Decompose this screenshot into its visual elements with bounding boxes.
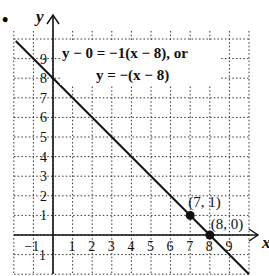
x-tick-label: 1 [69,239,76,254]
y-tick-label: 2 [40,189,47,204]
y-tick-label: 1 [40,208,47,223]
x-tick-label: 7 [186,239,193,254]
y-tick-label: 3 [40,169,47,184]
y-tick-label: 5 [40,130,47,145]
y-tick-label: 6 [40,110,47,125]
equation-line-1: y − 0 = −1(x − 8), or [62,45,188,62]
y-tick-label: 8 [40,71,47,86]
y-axis-label: y [34,7,44,26]
x-tick-labels: −1123456789 [24,239,232,254]
data-points: (7, 1)(8, 0) [186,194,244,239]
x-tick-label: 6 [167,239,174,254]
y-tick-label: 7 [40,91,47,106]
x-tick-label: 3 [108,239,115,254]
y-tick-label: 4 [40,150,47,165]
x-tick-label: 4 [127,239,134,254]
x-axis-label: x [261,233,269,252]
y-tick-label: 1 [39,248,46,263]
point-label: (8, 0) [211,216,244,233]
x-tick-label: 5 [147,239,154,254]
x-tick-label: −1 [24,239,39,254]
line-graph: x y • −1123456789 1123456789 y − 0 = −1(… [0,0,269,276]
x-tick-label: 2 [88,239,95,254]
x-tick-label: 8 [206,239,213,254]
y-tick-labels: 1123456789 [39,52,47,263]
point-label: (7, 1) [188,194,221,211]
y-tick-label: 9 [40,52,47,67]
data-point [186,211,195,220]
equation-line-2: y = −(x − 8) [96,67,169,84]
problem-marker: • [2,10,8,30]
